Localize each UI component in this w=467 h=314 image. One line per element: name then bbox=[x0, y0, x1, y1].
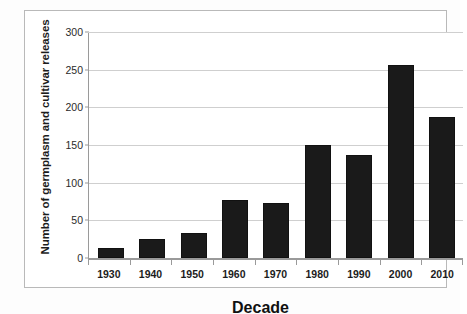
x-axis-tick-marks bbox=[88, 260, 463, 266]
x-tick-cell-2000 bbox=[380, 260, 422, 266]
y-tick-label-250: 250 bbox=[65, 64, 83, 76]
gridline-0: 0 bbox=[89, 258, 463, 259]
y-tick-mark-250 bbox=[85, 69, 89, 70]
x-tick-label-2000: 2000 bbox=[380, 268, 422, 280]
y-tick-label-150: 150 bbox=[65, 139, 83, 151]
bar-slot-1930 bbox=[90, 33, 131, 258]
bar-slot-1960 bbox=[214, 33, 255, 258]
x-tick-cell-1980 bbox=[296, 260, 338, 266]
y-tick-mark-0 bbox=[85, 258, 89, 259]
y-tick-mark-200 bbox=[85, 107, 89, 108]
x-tick-label-1930: 1930 bbox=[88, 268, 130, 280]
y-tick-label-200: 200 bbox=[65, 101, 83, 113]
x-tick-label-1980: 1980 bbox=[296, 268, 338, 280]
x-tick-label-1940: 1940 bbox=[130, 268, 172, 280]
x-tick-label-1990: 1990 bbox=[338, 268, 380, 280]
x-tick-cell-1950 bbox=[171, 260, 213, 266]
bar-1990 bbox=[346, 155, 372, 259]
bar-slot-1950 bbox=[173, 33, 214, 258]
x-tick-mark-1940 bbox=[130, 260, 131, 265]
x-tick-cell-2010 bbox=[421, 260, 463, 266]
y-tick-label-100: 100 bbox=[65, 177, 83, 189]
x-axis-tick-labels: 193019401950196019701980199020002010 bbox=[88, 268, 463, 280]
y-tick-mark-100 bbox=[85, 182, 89, 183]
bar-1960 bbox=[222, 200, 248, 259]
bar-slot-1980 bbox=[297, 33, 338, 258]
bar-2010 bbox=[429, 117, 455, 258]
x-tick-mark-1970 bbox=[255, 260, 256, 265]
bar-slot-2010 bbox=[422, 33, 463, 258]
x-tick-label-1960: 1960 bbox=[213, 268, 255, 280]
plot-area: 050100150200250300 bbox=[88, 33, 463, 260]
bar-1950 bbox=[181, 233, 207, 258]
x-tick-cell-1960 bbox=[213, 260, 255, 266]
x-tick-mark-1990 bbox=[338, 260, 339, 265]
x-tick-label-1970: 1970 bbox=[255, 268, 297, 280]
bar-1980 bbox=[305, 145, 331, 258]
x-tick-mark-1960 bbox=[213, 260, 214, 265]
y-tick-label-0: 0 bbox=[77, 252, 83, 264]
bar-1930 bbox=[98, 248, 124, 259]
bar-slot-1970 bbox=[256, 33, 297, 258]
x-tick-cell-1930 bbox=[88, 260, 130, 266]
x-tick-cell-1970 bbox=[255, 260, 297, 266]
x-tick-cell-1940 bbox=[130, 260, 172, 266]
y-tick-mark-300 bbox=[85, 32, 89, 33]
bar-1940 bbox=[139, 239, 165, 258]
bar-series bbox=[90, 33, 463, 258]
bar-1970 bbox=[263, 203, 289, 258]
x-tick-cell-1990 bbox=[338, 260, 380, 266]
x-axis-title: Decade bbox=[49, 299, 467, 314]
bar-slot-2000 bbox=[380, 33, 421, 258]
x-tick-mark-1980 bbox=[296, 260, 297, 265]
bar-slot-1990 bbox=[339, 33, 380, 258]
y-tick-label-50: 50 bbox=[71, 214, 83, 226]
x-tick-mark-2010 bbox=[421, 260, 422, 265]
x-axis-end-tick bbox=[462, 260, 463, 265]
y-tick-mark-50 bbox=[85, 220, 89, 221]
x-tick-mark-2000 bbox=[380, 260, 381, 265]
x-tick-label-2010: 2010 bbox=[421, 268, 463, 280]
bar-slot-1940 bbox=[131, 33, 172, 258]
bar-2000 bbox=[388, 65, 414, 259]
y-axis-title: Number of germplasm and cultivar release… bbox=[39, 12, 51, 262]
figure-frame: Number of germplasm and cultivar release… bbox=[24, 10, 447, 288]
x-tick-mark-1950 bbox=[171, 260, 172, 265]
y-tick-label-300: 300 bbox=[65, 26, 83, 38]
x-tick-label-1950: 1950 bbox=[171, 268, 213, 280]
x-tick-mark-1930 bbox=[88, 260, 89, 265]
y-tick-mark-150 bbox=[85, 145, 89, 146]
